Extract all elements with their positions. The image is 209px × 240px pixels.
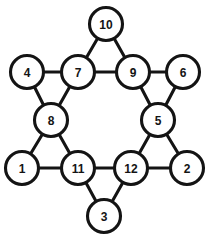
graph-node-3[interactable]: 3 <box>88 200 121 233</box>
node-label-3: 3 <box>101 210 108 224</box>
graph-node-10[interactable]: 10 <box>90 8 123 41</box>
node-label-5: 5 <box>155 114 162 128</box>
graph-node-2[interactable]: 2 <box>171 152 204 185</box>
node-label-6: 6 <box>180 66 187 80</box>
node-label-9: 9 <box>130 66 137 80</box>
graph-node-6[interactable]: 6 <box>167 56 200 89</box>
star-graph-diagram: 104796851111223 <box>0 0 209 240</box>
node-label-11: 11 <box>72 162 85 176</box>
node-label-7: 7 <box>75 66 82 80</box>
node-label-1: 1 <box>19 162 26 176</box>
node-label-4: 4 <box>24 66 31 80</box>
node-label-12: 12 <box>124 162 138 176</box>
graph-node-4[interactable]: 4 <box>11 56 44 89</box>
graph-node-5[interactable]: 5 <box>142 104 175 137</box>
node-label-10: 10 <box>99 18 113 32</box>
node-label-2: 2 <box>184 162 191 176</box>
node-layer: 104796851111223 <box>6 8 204 233</box>
graph-node-1[interactable]: 1 <box>6 152 39 185</box>
graph-node-8[interactable]: 8 <box>35 104 68 137</box>
graph-node-12[interactable]: 12 <box>115 152 148 185</box>
graph-node-11[interactable]: 11 <box>62 152 95 185</box>
figure-container: 104796851111223 <box>0 0 209 240</box>
graph-node-7[interactable]: 7 <box>62 56 95 89</box>
node-label-8: 8 <box>48 114 55 128</box>
graph-node-9[interactable]: 9 <box>117 56 150 89</box>
